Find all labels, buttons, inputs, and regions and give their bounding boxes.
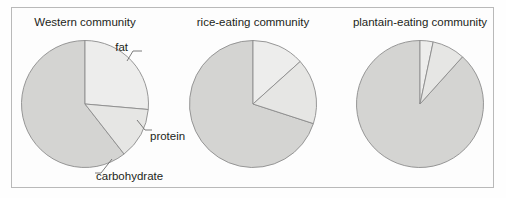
figure-container: Western community fat protein carbohydra…	[0, 0, 506, 198]
label-carbohydrate: carbohydrate	[96, 170, 163, 182]
pie-title-western: Western community	[34, 16, 136, 28]
label-protein: protein	[150, 130, 185, 142]
pie-chart-western: Western community fat protein carbohydra…	[21, 16, 185, 182]
pie-chart-rice-eating: rice-eating community	[189, 16, 316, 168]
pie-charts-svg: Western community fat protein carbohydra…	[0, 0, 506, 198]
pie-chart-plantain-eating: plantain-eating community	[353, 16, 487, 168]
pie-title-plantain-eating: plantain-eating community	[353, 16, 487, 28]
label-fat: fat	[115, 41, 129, 53]
pie-title-rice-eating: rice-eating community	[197, 16, 310, 28]
